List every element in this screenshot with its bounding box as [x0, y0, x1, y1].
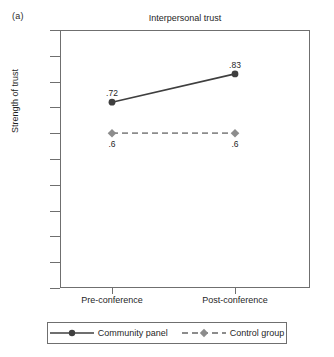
- x-tick-mark: [112, 288, 113, 294]
- data-label-community-panel-pre: .72: [92, 88, 132, 98]
- chart-legend: Community panel Control group: [47, 322, 287, 344]
- y-tick-mark: [50, 262, 60, 263]
- legend-marker-community-panel: [50, 327, 94, 339]
- data-label-community-panel-post: .83: [215, 60, 255, 70]
- legend-marker-control-group: [182, 327, 226, 339]
- y-tick-mark: [50, 82, 60, 83]
- x-tick-label-pre-conference: Pre-conference: [52, 295, 172, 305]
- y-tick-mark: [50, 133, 60, 134]
- chart-title: Interpersonal trust: [60, 13, 310, 23]
- y-tick-mark: [50, 159, 60, 160]
- legend-label-control-group: Control group: [230, 328, 285, 338]
- panel-letter: (a): [12, 11, 24, 21]
- y-tick-mark: [50, 30, 60, 31]
- data-label-control-group-pre: .6: [92, 139, 132, 149]
- x-tick-mark: [235, 288, 236, 294]
- y-tick-mark: [50, 211, 60, 212]
- legend-item-community-panel: Community panel: [50, 327, 168, 339]
- legend-item-control-group: Control group: [182, 327, 285, 339]
- y-tick-mark: [50, 185, 60, 186]
- plot-area: [60, 30, 310, 288]
- y-tick-mark: [50, 288, 60, 289]
- data-label-control-group-post: .6: [215, 139, 255, 149]
- chart-figure: (a) Interpersonal trust Strength of trus…: [0, 0, 334, 357]
- y-tick-mark: [50, 236, 60, 237]
- y-tick-mark: [50, 56, 60, 57]
- y-axis-title: Strength of trust: [10, 41, 20, 161]
- y-tick-mark: [50, 107, 60, 108]
- legend-label-community-panel: Community panel: [98, 328, 168, 338]
- x-tick-label-post-conference: Post-conference: [175, 295, 295, 305]
